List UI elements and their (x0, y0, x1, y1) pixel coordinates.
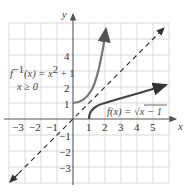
svg-text:1: 1 (64, 98, 70, 110)
x-axis-label: x (177, 121, 183, 132)
function-label: f(x) = √x − 1 (107, 106, 162, 118)
svg-text:−1: −1 (59, 130, 71, 142)
function-inverse-graph: x y −3 −2 −1 1 2 3 4 5 4 2 1 −1 −2 −3 f−… (0, 0, 185, 192)
svg-text:−2: −2 (29, 121, 41, 133)
svg-text:3: 3 (118, 121, 124, 133)
identity-line-dashed (12, 28, 164, 180)
svg-text:4: 4 (64, 50, 70, 62)
svg-text:4: 4 (134, 121, 140, 133)
svg-text:2: 2 (64, 82, 70, 94)
svg-text:−3: −3 (12, 121, 24, 133)
svg-text:2: 2 (102, 121, 108, 133)
y-axis-label: y (61, 9, 67, 20)
x-tick-labels: −3 −2 −1 1 2 3 4 5 (12, 121, 156, 133)
svg-text:−1: −1 (46, 121, 58, 133)
svg-text:−3: −3 (59, 162, 71, 174)
domain-restriction-label: x ≥ 0 (16, 81, 39, 92)
svg-text:−2: −2 (59, 146, 71, 158)
svg-text:5: 5 (150, 121, 156, 133)
svg-text:1: 1 (86, 121, 92, 133)
identity-line-start-arrow (10, 174, 18, 182)
inverse-function-label: f−1(x) = x2 + 1 (10, 64, 74, 80)
